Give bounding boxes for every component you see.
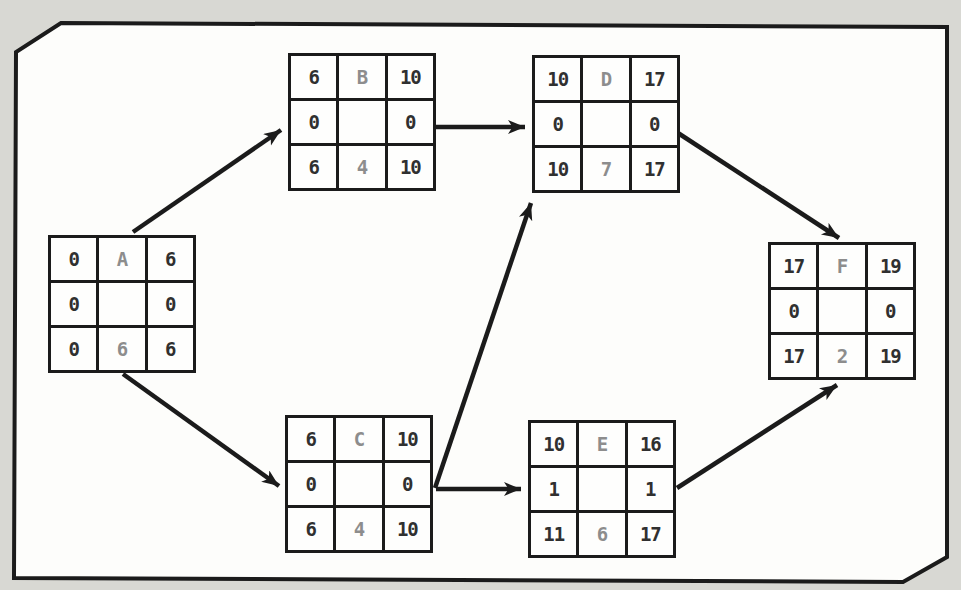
- node-d-cell-slack-left: 0: [535, 103, 580, 145]
- node-e-cell-lf: 17: [628, 513, 673, 555]
- node-f-cell-slack-left: 0: [771, 290, 816, 332]
- node-f-cell-slack-right: 0: [868, 290, 913, 332]
- node-d-cell-es: 10: [535, 58, 580, 100]
- activity-node-c: 6 C 10 0 0 6 4 10: [285, 415, 433, 553]
- node-d-cell-ef: 17: [632, 58, 677, 100]
- node-e-cell-ls: 11: [531, 513, 576, 555]
- node-c-cell-duration: 4: [336, 508, 381, 550]
- node-e-cell-slack-left: 1: [531, 468, 576, 510]
- activity-node-f: 17 F 19 0 0 17 2 19: [768, 242, 916, 380]
- node-a-cell-ef: 6: [148, 238, 193, 280]
- network-diagram-page: 0 A 6 0 0 0 6 6 6 B 10 0 0 6 4 10 6 C 10…: [0, 0, 961, 590]
- node-a-cell-name: A: [99, 238, 144, 280]
- node-e-cell-center: [579, 468, 624, 510]
- node-b-cell-center: [339, 101, 384, 143]
- activity-node-e: 10 E 16 1 1 11 6 17: [528, 420, 676, 558]
- node-f-cell-ef: 19: [868, 245, 913, 287]
- node-b-cell-duration: 4: [339, 146, 384, 188]
- node-c-cell-es: 6: [288, 418, 333, 460]
- node-a-cell-duration: 6: [99, 328, 144, 370]
- node-a-cell-slack-right: 0: [148, 283, 193, 325]
- activity-node-d: 10 D 17 0 0 10 7 17: [532, 55, 680, 193]
- node-c-cell-center: [336, 463, 381, 505]
- node-c-cell-lf: 10: [385, 508, 430, 550]
- node-e-cell-ef: 16: [628, 423, 673, 465]
- node-f-cell-duration: 2: [819, 335, 864, 377]
- node-a-cell-ls: 0: [51, 328, 96, 370]
- node-c-cell-ls: 6: [288, 508, 333, 550]
- node-d-cell-duration: 7: [583, 148, 628, 190]
- node-b-cell-slack-left: 0: [291, 101, 336, 143]
- node-b-cell-ls: 6: [291, 146, 336, 188]
- activity-node-a: 0 A 6 0 0 0 6 6: [48, 235, 196, 373]
- node-f-cell-ls: 17: [771, 335, 816, 377]
- node-d-cell-slack-right: 0: [632, 103, 677, 145]
- activity-node-b: 6 B 10 0 0 6 4 10: [288, 53, 436, 191]
- node-a-cell-lf: 6: [148, 328, 193, 370]
- node-e-cell-duration: 6: [579, 513, 624, 555]
- node-c-cell-slack-right: 0: [385, 463, 430, 505]
- node-e-cell-name: E: [579, 423, 624, 465]
- node-d-cell-center: [583, 103, 628, 145]
- node-f-cell-es: 17: [771, 245, 816, 287]
- node-b-cell-name: B: [339, 56, 384, 98]
- node-d-cell-name: D: [583, 58, 628, 100]
- node-d-cell-ls: 10: [535, 148, 580, 190]
- node-c-cell-name: C: [336, 418, 381, 460]
- node-e-cell-es: 10: [531, 423, 576, 465]
- node-a-cell-es: 0: [51, 238, 96, 280]
- node-a-cell-slack-left: 0: [51, 283, 96, 325]
- node-c-cell-slack-left: 0: [288, 463, 333, 505]
- node-b-cell-es: 6: [291, 56, 336, 98]
- node-b-cell-lf: 10: [388, 146, 433, 188]
- node-e-cell-slack-right: 1: [628, 468, 673, 510]
- node-a-cell-center: [99, 283, 144, 325]
- node-b-cell-ef: 10: [388, 56, 433, 98]
- node-f-cell-center: [819, 290, 864, 332]
- node-b-cell-slack-right: 0: [388, 101, 433, 143]
- node-f-cell-lf: 19: [868, 335, 913, 377]
- node-d-cell-lf: 17: [632, 148, 677, 190]
- node-c-cell-ef: 10: [385, 418, 430, 460]
- node-f-cell-name: F: [819, 245, 864, 287]
